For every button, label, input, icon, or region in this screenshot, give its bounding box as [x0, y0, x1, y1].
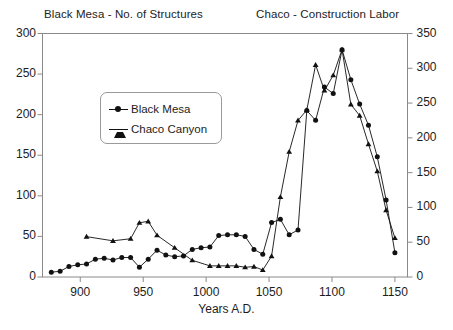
data-point	[392, 250, 397, 255]
left-tick-label: 0	[4, 269, 36, 283]
x-axis-ticks	[80, 277, 395, 282]
right-tick-label: 50	[417, 234, 451, 248]
left-tick-label: 50	[4, 228, 36, 242]
triangle-marker-icon	[109, 124, 128, 134]
data-series-layer	[49, 47, 398, 275]
left-tick-label: 200	[4, 107, 36, 121]
data-point	[366, 141, 372, 146]
right-tick-label: 300	[417, 60, 451, 74]
left-tick-label: 250	[4, 66, 36, 80]
plot-border	[43, 34, 408, 278]
data-point	[207, 244, 212, 249]
data-point	[58, 269, 63, 274]
data-point	[84, 234, 90, 239]
data-point	[348, 102, 354, 107]
chart-legend: Black Mesa Chaco Canyon	[100, 92, 222, 144]
data-point	[278, 217, 283, 222]
left-tick-label: 150	[4, 147, 36, 161]
right-tick-label: 350	[417, 26, 451, 40]
x-tick-label: 1150	[373, 285, 417, 299]
x-tick-label: 1050	[247, 285, 291, 299]
data-point	[137, 265, 142, 270]
left-tick-label: 300	[4, 26, 36, 40]
data-point	[260, 252, 265, 257]
chart-figure: Black Mesa - No. of Structures Chaco - C…	[0, 0, 453, 330]
data-point	[366, 123, 371, 128]
data-point	[234, 232, 239, 237]
data-point	[119, 255, 124, 260]
plot-area	[0, 0, 453, 330]
data-point	[154, 232, 160, 237]
legend-item-chaco-canyon: Chaco Canyon	[109, 119, 215, 139]
data-point	[199, 245, 204, 250]
data-point	[225, 232, 230, 237]
data-point	[313, 62, 319, 67]
data-point	[146, 257, 151, 262]
right-tick-label: 200	[417, 130, 451, 144]
legend-item-black-mesa: Black Mesa	[109, 99, 215, 119]
right-tick-label: 100	[417, 199, 451, 213]
x-tick-label: 950	[121, 285, 165, 299]
data-point	[102, 256, 107, 261]
data-point	[172, 245, 178, 250]
data-point	[269, 253, 275, 258]
data-point	[110, 257, 115, 262]
data-point	[330, 72, 336, 77]
data-point	[251, 247, 256, 252]
left-axis-ticks	[38, 34, 43, 278]
data-point	[331, 91, 336, 96]
right-tick-label: 150	[417, 165, 451, 179]
data-point	[145, 218, 151, 223]
series-black-mesa	[49, 47, 398, 274]
data-point	[374, 168, 380, 173]
x-tick-label: 1000	[184, 285, 228, 299]
legend-label-black-mesa: Black Mesa	[131, 103, 190, 115]
data-point	[93, 257, 98, 262]
left-tick-label: 100	[4, 188, 36, 202]
data-point	[348, 77, 353, 82]
data-point	[243, 234, 248, 239]
data-point	[296, 227, 301, 232]
data-point	[375, 154, 380, 159]
data-point	[189, 257, 195, 262]
x-tick-label: 900	[58, 285, 102, 299]
data-point	[172, 254, 177, 259]
data-point	[277, 194, 283, 199]
right-tick-label: 250	[417, 95, 451, 109]
right-axis-ticks	[408, 34, 413, 278]
data-point	[66, 264, 71, 269]
data-point	[286, 149, 292, 154]
data-point	[75, 262, 80, 267]
data-point	[155, 248, 160, 253]
x-axis-title: Years A.D.	[0, 302, 453, 316]
data-point	[49, 270, 54, 275]
data-point	[392, 235, 398, 240]
data-point	[251, 264, 257, 269]
data-point	[357, 102, 362, 107]
data-point	[128, 255, 133, 260]
axis-frame	[43, 34, 408, 278]
x-tick-label: 1100	[310, 285, 354, 299]
data-point	[287, 232, 292, 237]
data-point	[190, 247, 195, 252]
data-point	[216, 233, 221, 238]
legend-label-chaco-canyon: Chaco Canyon	[131, 123, 207, 135]
data-point	[163, 253, 168, 258]
data-point	[84, 262, 89, 267]
data-point	[313, 118, 318, 123]
data-point	[269, 220, 274, 225]
right-tick-label: 0	[417, 269, 451, 283]
circle-marker-icon	[109, 104, 128, 114]
data-point	[128, 236, 134, 241]
